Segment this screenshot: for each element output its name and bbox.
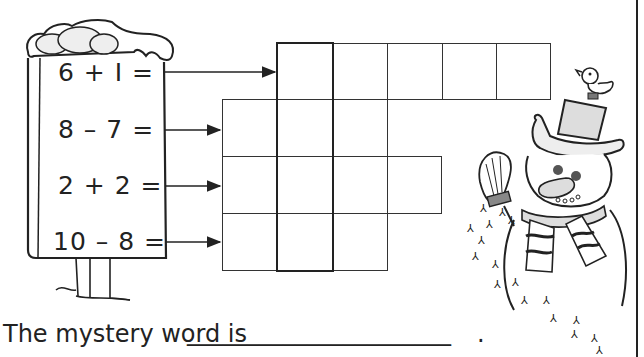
answer-cell[interactable] <box>387 43 443 100</box>
answer-blank[interactable]: ______________________ <box>187 318 451 346</box>
equation-4: 10 – 8 = <box>53 228 166 256</box>
page-border <box>636 0 638 357</box>
answer-cell[interactable] <box>277 99 333 157</box>
answer-cell[interactable] <box>332 99 388 157</box>
answer-cell[interactable] <box>222 99 278 157</box>
answer-cell[interactable] <box>277 43 333 100</box>
bird-icon <box>576 68 613 99</box>
answer-period: . <box>477 320 485 348</box>
answer-cell[interactable] <box>277 213 333 271</box>
answer-cell[interactable] <box>332 156 388 214</box>
answer-cell[interactable] <box>222 156 278 214</box>
equation-1: 6 + I = <box>58 59 154 87</box>
answer-cell[interactable] <box>277 156 333 214</box>
equation-2: 8 – 7 = <box>58 116 154 144</box>
answer-cell[interactable] <box>332 213 388 271</box>
answer-cell[interactable] <box>387 156 442 214</box>
equation-3: 2 + 2 = <box>58 172 163 200</box>
answer-cell[interactable] <box>332 43 388 100</box>
answer-cell[interactable] <box>222 213 278 271</box>
